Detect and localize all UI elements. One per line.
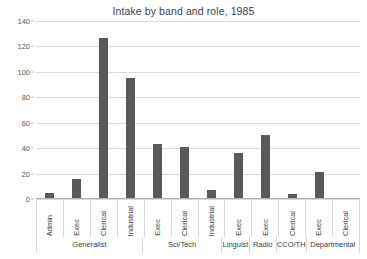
y-axis-tick-label: 100	[17, 67, 30, 76]
x-axis-role-cell: Clerical	[90, 199, 117, 237]
x-axis-role-label: Clerical	[100, 211, 108, 236]
x-axis-role-label: Clerical	[342, 211, 350, 236]
y-axis-tick-label: 120	[17, 42, 30, 51]
x-axis-role-labels: AdminExecClericalIndustrialExecClericalI…	[36, 199, 360, 237]
x-axis-group-labels: GeneralistSci/TechLinguistRadioCCO/THDep…	[36, 237, 360, 253]
bar-slot	[36, 21, 63, 199]
x-axis-role-cell: Exec	[305, 199, 332, 237]
y-axis-tick	[31, 71, 34, 72]
bar-slot	[198, 21, 225, 199]
y-axis-tick-label: 0	[26, 195, 30, 204]
bar-slot	[306, 21, 333, 199]
x-axis-group-cell: Linguist	[221, 237, 248, 253]
bar-slot	[225, 21, 252, 199]
bar[interactable]	[234, 153, 243, 199]
y-axis-tick-label: 40	[22, 144, 30, 153]
x-axis-group-label: Departmental	[310, 241, 355, 249]
bar-slot	[117, 21, 144, 199]
y-axis-tick-label: 60	[22, 118, 30, 127]
x-axis-role-cell: Clerical	[332, 199, 360, 237]
x-axis-role-label: Exec	[235, 219, 243, 236]
x-axis-role-cell: Exec	[63, 199, 90, 237]
y-axis-tick	[31, 199, 34, 200]
bar-series	[36, 21, 360, 199]
y-axis-tick	[31, 173, 34, 174]
x-axis: AdminExecClericalIndustrialExecClericalI…	[36, 199, 360, 259]
x-axis-role-label: Exec	[262, 219, 270, 236]
x-axis-group-cell: Radio	[249, 237, 276, 253]
x-axis-role-cell: Exec	[144, 199, 171, 237]
y-axis-tick-label: 80	[22, 93, 30, 102]
bar-slot	[171, 21, 198, 199]
bar[interactable]	[261, 135, 270, 199]
bar[interactable]	[315, 172, 324, 199]
y-axis-tick	[31, 122, 34, 123]
bar-slot	[144, 21, 171, 199]
chart-container: Intake by band and role, 1985 0204060801…	[0, 0, 367, 259]
x-axis-role-cell: Industrial	[198, 199, 225, 237]
x-axis-group-label: Radio	[253, 241, 273, 249]
bar-slot	[252, 21, 279, 199]
x-axis-group-label: Sci/Tech	[168, 241, 196, 249]
bar[interactable]	[99, 38, 108, 199]
chart-title: Intake by band and role, 1985	[0, 5, 367, 17]
x-axis-role-label: Clerical	[289, 211, 297, 236]
plot-area	[36, 21, 360, 199]
bar[interactable]	[153, 144, 162, 199]
x-axis-group-cell: CCO/TH	[276, 237, 306, 253]
x-axis-role-label: Industrial	[127, 206, 135, 236]
y-axis-tick-label: 20	[22, 169, 30, 178]
x-axis-role-label: Industrial	[208, 206, 216, 236]
x-axis-role-cell: Exec	[251, 199, 278, 237]
x-axis-group-label: Generalist	[72, 241, 106, 249]
y-axis-tick	[31, 148, 34, 149]
x-axis-role-cell: Admin	[36, 199, 63, 237]
x-axis-group-cell: Generalist	[36, 237, 142, 253]
x-axis-role-label: Clerical	[181, 211, 189, 236]
bar[interactable]	[126, 78, 135, 199]
x-axis-role-label: Exec	[73, 219, 81, 236]
y-axis-tick	[31, 46, 34, 47]
x-axis-group-cell: Departmental	[306, 237, 360, 253]
bar-slot	[333, 21, 360, 199]
bar[interactable]	[180, 147, 189, 199]
x-axis-role-cell: Clerical	[278, 199, 305, 237]
bar-slot	[279, 21, 306, 199]
y-axis-tick-label: 140	[17, 17, 30, 26]
x-axis-role-label: Admin	[46, 215, 54, 236]
bar[interactable]	[72, 179, 81, 199]
bar-slot	[90, 21, 117, 199]
bar-slot	[63, 21, 90, 199]
x-axis-role-cell: Industrial	[117, 199, 144, 237]
x-axis-role-cell: Exec	[224, 199, 251, 237]
x-axis-group-label: Linguist	[223, 241, 249, 249]
x-axis-role-label: Exec	[154, 219, 162, 236]
y-axis: 020406080100120140	[0, 21, 34, 199]
x-axis-group-label: CCO/TH	[277, 241, 306, 249]
x-axis-role-cell: Clerical	[171, 199, 198, 237]
x-axis-role-label: Exec	[315, 219, 323, 236]
y-axis-tick	[31, 21, 34, 22]
x-axis-group-cell: Sci/Tech	[142, 237, 222, 253]
y-axis-tick	[31, 97, 34, 98]
